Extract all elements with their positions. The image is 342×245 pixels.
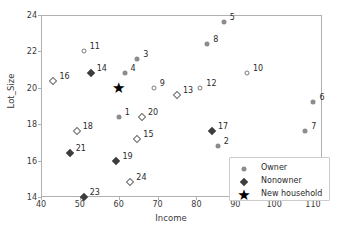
data-point-label: 17 bbox=[218, 122, 228, 131]
x-tick-label: 60 bbox=[114, 200, 124, 209]
data-point-label: 23 bbox=[90, 188, 100, 197]
legend-label: Nonowner bbox=[261, 176, 302, 185]
x-axis-label: Income bbox=[0, 213, 342, 223]
y-tick-mark bbox=[38, 88, 41, 89]
data-point bbox=[215, 144, 220, 149]
legend-label: New household bbox=[261, 189, 322, 198]
data-point-label: 7 bbox=[311, 122, 316, 131]
data-point bbox=[151, 85, 156, 90]
data-point-label: 19 bbox=[122, 152, 132, 161]
data-point bbox=[135, 56, 140, 61]
data-point-label: 12 bbox=[206, 79, 216, 88]
data-point-label: 8 bbox=[213, 35, 218, 44]
data-point-label: 14 bbox=[97, 64, 107, 73]
data-point-label: 5 bbox=[230, 13, 235, 22]
legend-label: Owner bbox=[261, 163, 287, 172]
data-point-label: 21 bbox=[76, 144, 86, 153]
data-point-label: 9 bbox=[160, 79, 165, 88]
y-tick-label: 16 bbox=[27, 156, 37, 165]
legend-marker-icon bbox=[242, 167, 247, 172]
data-point bbox=[81, 49, 86, 54]
y-tick-label: 18 bbox=[27, 120, 37, 129]
chart-legend: OwnerNonowner★New household bbox=[229, 157, 330, 201]
data-point bbox=[244, 71, 249, 76]
y-tick-mark bbox=[38, 15, 41, 16]
data-point-label: 24 bbox=[136, 173, 146, 182]
data-point-label: 1 bbox=[125, 108, 130, 117]
data-point-label: 11 bbox=[90, 42, 100, 51]
y-tick-mark bbox=[38, 124, 41, 125]
legend-item: ★New household bbox=[230, 188, 331, 202]
data-point-label: 2 bbox=[224, 137, 229, 146]
x-tick-label: 40 bbox=[36, 200, 46, 209]
data-point-label: 4 bbox=[131, 64, 136, 73]
y-tick-label: 22 bbox=[27, 47, 37, 56]
data-point-label: 15 bbox=[143, 130, 153, 139]
data-point bbox=[311, 100, 316, 105]
y-tick-mark bbox=[38, 161, 41, 162]
data-point bbox=[303, 129, 308, 134]
data-point-label: 20 bbox=[148, 108, 158, 117]
y-tick-label: 14 bbox=[27, 193, 37, 202]
data-point-label: 10 bbox=[253, 64, 263, 73]
y-tick-mark bbox=[38, 51, 41, 52]
data-point bbox=[221, 20, 226, 25]
data-point bbox=[205, 42, 210, 47]
x-tick-label: 70 bbox=[152, 200, 162, 209]
data-point bbox=[122, 71, 127, 76]
x-tick-label: 80 bbox=[191, 200, 201, 209]
data-point-label: 6 bbox=[319, 93, 324, 102]
legend-marker-icon bbox=[240, 178, 248, 186]
scatter-chart-figure: 405060708090100110 141618202224 12345678… bbox=[0, 0, 342, 245]
y-tick-label: 24 bbox=[27, 11, 37, 20]
data-point-label: 3 bbox=[143, 50, 148, 59]
data-point-label: 13 bbox=[183, 86, 193, 95]
data-point-label: 18 bbox=[83, 122, 93, 131]
y-tick-label: 20 bbox=[27, 83, 37, 92]
data-point bbox=[198, 85, 203, 90]
y-tick-mark bbox=[38, 197, 41, 198]
y-axis-label: Lot_Size bbox=[6, 56, 16, 126]
data-point-label: 16 bbox=[59, 72, 69, 81]
legend-item: Owner bbox=[230, 162, 331, 176]
data-point bbox=[116, 114, 121, 119]
